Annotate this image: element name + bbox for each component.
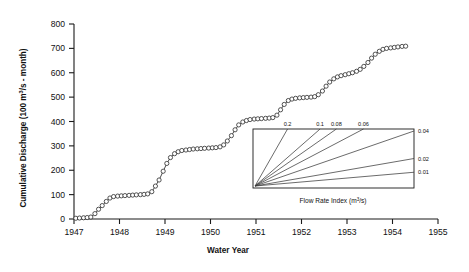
inset-caption: Flow Rate Index (m3/s)	[299, 197, 366, 205]
data-point	[305, 95, 309, 99]
data-point	[180, 148, 184, 152]
data-point	[104, 199, 108, 203]
flow-rate-index-inset: 0.20.10.080.060.040.020.01 Flow Rate Ind…	[253, 121, 429, 205]
x-tick-label: 1951	[246, 227, 265, 237]
data-point	[168, 155, 172, 159]
y-axis-ticks: 0100200300400500600700800	[51, 19, 74, 224]
data-point	[150, 190, 154, 194]
data-point	[275, 113, 279, 117]
data-point	[165, 161, 169, 165]
data-point	[202, 146, 206, 150]
data-point	[225, 139, 229, 143]
y-tick-label: 500	[51, 92, 66, 102]
inset-fan-label: 0.06	[358, 121, 369, 127]
data-point	[259, 116, 263, 120]
data-point	[96, 207, 100, 211]
data-point	[293, 96, 297, 100]
x-tick-label: 1948	[110, 227, 129, 237]
cumulative-discharge-chart: 0100200300400500600700800 19471948194919…	[0, 0, 469, 272]
x-tick-label: 1950	[201, 227, 220, 237]
data-point	[111, 194, 115, 198]
data-point	[369, 56, 373, 60]
y-tick-label: 200	[51, 165, 66, 175]
data-point	[271, 116, 275, 120]
inset-fan-label: 0.2	[284, 121, 292, 127]
y-tick-label: 400	[51, 117, 66, 127]
data-point	[153, 184, 157, 188]
inset-fan-lines	[255, 129, 414, 186]
chart-axes	[74, 24, 438, 219]
data-point	[89, 215, 93, 219]
x-tick-label: 1949	[155, 227, 174, 237]
y-tick-label: 600	[51, 68, 66, 78]
data-point	[229, 134, 233, 138]
y-tick-label: 100	[51, 190, 66, 200]
data-point	[320, 89, 324, 93]
data-point	[161, 169, 165, 173]
data-point	[278, 108, 282, 112]
data-point	[350, 71, 354, 75]
data-point	[339, 74, 343, 78]
y-axis-label: Cumulative Discharge (100 m3/s - month)	[18, 48, 28, 207]
data-point	[100, 203, 104, 207]
inset-fan-label: 0.01	[418, 169, 429, 175]
data-point	[404, 44, 408, 48]
x-tick-label: 1947	[64, 227, 83, 237]
data-point	[123, 194, 127, 198]
inset-fan-label: 0.08	[331, 121, 342, 127]
data-point	[157, 178, 161, 182]
data-point	[324, 84, 328, 88]
data-point	[362, 64, 366, 68]
x-tick-label: 1955	[428, 227, 447, 237]
data-point	[248, 117, 252, 121]
data-point	[214, 145, 218, 149]
x-tick-label: 1953	[337, 227, 356, 237]
data-point	[373, 52, 377, 56]
data-point	[77, 216, 81, 220]
data-point	[328, 80, 332, 84]
data-point	[222, 143, 226, 147]
x-tick-label: 1954	[383, 227, 402, 237]
x-tick-label: 1952	[292, 227, 311, 237]
data-point	[396, 45, 400, 49]
data-point	[358, 67, 362, 71]
y-tick-label: 700	[51, 43, 66, 53]
data-point	[366, 60, 370, 64]
y-tick-label: 800	[51, 19, 66, 29]
y-tick-label: 0	[60, 214, 65, 224]
data-point	[93, 212, 97, 216]
data-point	[134, 193, 138, 197]
data-point	[384, 46, 388, 50]
data-point	[316, 93, 320, 97]
data-point	[237, 123, 241, 127]
x-axis-ticks: 194719481949195019511952195319541955	[64, 219, 447, 237]
inset-fan-label: 0.04	[418, 128, 429, 134]
data-point	[233, 128, 237, 132]
data-point	[191, 147, 195, 151]
data-point	[282, 102, 286, 106]
figure-canvas: 0100200300400500600700800 19471948194919…	[0, 0, 469, 272]
inset-fan-label: 0.1	[316, 121, 324, 127]
y-tick-label: 300	[51, 141, 66, 151]
data-point	[146, 192, 150, 196]
inset-fan-label: 0.02	[418, 156, 429, 162]
x-axis-label: Water Year	[207, 246, 250, 255]
